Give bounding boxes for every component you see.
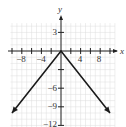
y-axis-arrow-icon [59, 15, 63, 20]
x-axis-arrow-icon [113, 49, 118, 53]
y-axis-label: y [57, 4, 62, 14]
y-tick-label: −6 [47, 83, 57, 93]
grid-lines [11, 23, 115, 127]
x-tick-label: −8 [16, 54, 26, 64]
y-tick-label: −9 [47, 101, 57, 111]
y-tick-label: 3 [53, 27, 58, 37]
x-axis-label: x [119, 46, 124, 56]
x-tick-label: 8 [97, 54, 102, 64]
x-tick-label: 4 [78, 54, 83, 64]
y-tick-label: −12 [43, 119, 57, 127]
x-tick-label: −4 [36, 54, 46, 64]
axes [8, 15, 118, 125]
chart-canvas: x y −8 −4 4 8 3 −6 −9 −12 [0, 0, 126, 127]
